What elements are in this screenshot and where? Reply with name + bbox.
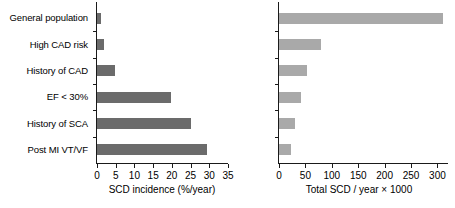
x-axis-tick-label: 15 [148, 169, 159, 182]
y-axis-minor-tick [93, 84, 97, 85]
x-axis-tick-label: 35 [222, 169, 233, 182]
y-axis-minor-tick [93, 137, 97, 138]
x-axis-tick-label: 200 [376, 169, 393, 182]
x-axis-tick-label: 150 [350, 169, 367, 182]
y-axis-minor-tick [275, 84, 279, 85]
category-label: EF < 30% [0, 84, 92, 110]
x-axis-tick [209, 164, 210, 168]
bar-4 [97, 92, 171, 103]
category-label: General population [0, 5, 92, 31]
bar-5 [279, 118, 295, 129]
x-axis-tick-label: 100 [323, 169, 340, 182]
bar-6 [279, 144, 291, 155]
x-axis-tick-label: 0 [94, 169, 100, 182]
x-axis-tick [437, 164, 438, 168]
x-axis-ticks [96, 164, 228, 168]
bar-row [97, 110, 228, 136]
x-axis-title: SCD incidence (%/year) [78, 184, 246, 195]
category-label: History of SCA [0, 110, 92, 136]
x-axis-tick [279, 164, 280, 168]
y-axis-minor-tick [275, 137, 279, 138]
y-axis-minor-tick [275, 31, 279, 32]
category-label-column: General population High CAD risk History… [0, 5, 92, 163]
x-axis-tick-label: 5 [113, 169, 119, 182]
y-axis-minor-tick [93, 58, 97, 59]
y-axis-minor-tick [275, 58, 279, 59]
x-axis-ticks [278, 164, 448, 168]
bar-1 [279, 13, 443, 24]
x-axis-tick [134, 164, 135, 168]
x-axis-tick [411, 164, 412, 168]
bar-row [97, 58, 228, 84]
y-axis-minor-tick [275, 110, 279, 111]
bar-row [97, 31, 228, 57]
x-axis-tick-label: 25 [185, 169, 196, 182]
category-label: Post MI VT/VF [0, 137, 92, 163]
chart-figure: General population High CAD risk History… [0, 0, 455, 208]
bar-1 [97, 13, 101, 24]
x-axis-tick [332, 164, 333, 168]
bar-row [279, 137, 448, 163]
bar-row [279, 58, 448, 84]
x-axis-tick [97, 164, 98, 168]
bar-5 [97, 118, 191, 129]
bar-row [279, 5, 448, 31]
x-axis-tick [385, 164, 386, 168]
x-axis-tick-label: 20 [166, 169, 177, 182]
y-axis-minor-tick [93, 110, 97, 111]
plot-area-left [97, 5, 228, 163]
category-label: High CAD risk [0, 31, 92, 57]
plot-area-right [279, 5, 448, 163]
bar-row [279, 110, 448, 136]
bar-6 [97, 144, 207, 155]
x-axis-tick [153, 164, 154, 168]
y-axis-minor-tick [93, 31, 97, 32]
bar-2 [279, 39, 321, 50]
x-axis-tick [358, 164, 359, 168]
bar-row [97, 5, 228, 31]
x-axis-tick-labels: 050100150200250300 [278, 169, 448, 182]
x-axis-tick-label: 0 [276, 169, 282, 182]
bar-row [97, 84, 228, 110]
bar-3 [97, 65, 115, 76]
x-axis-tick-label: 300 [429, 169, 446, 182]
x-axis-tick-label: 250 [403, 169, 420, 182]
panel-scd-incidence: 05101520253035 SCD incidence (%/year) [96, 5, 228, 163]
x-axis-tick [305, 164, 306, 168]
x-axis-tick [191, 164, 192, 168]
x-axis-tick-labels: 05101520253035 [96, 169, 228, 182]
x-axis-title: Total SCD / year × 1000 [264, 184, 454, 195]
bar-row [97, 137, 228, 163]
x-axis-tick [228, 164, 229, 168]
bar-row [279, 84, 448, 110]
category-label: History of CAD [0, 58, 92, 84]
x-axis-tick-label: 10 [129, 169, 140, 182]
x-axis-tick-label: 30 [204, 169, 215, 182]
panel-total-scd: 050100150200250300 Total SCD / year × 10… [278, 5, 448, 163]
bar-4 [279, 92, 301, 103]
x-axis-tick [172, 164, 173, 168]
bar-2 [97, 39, 104, 50]
x-axis-tick [116, 164, 117, 168]
bar-row [279, 31, 448, 57]
bar-3 [279, 65, 307, 76]
x-axis-tick-label: 50 [300, 169, 311, 182]
